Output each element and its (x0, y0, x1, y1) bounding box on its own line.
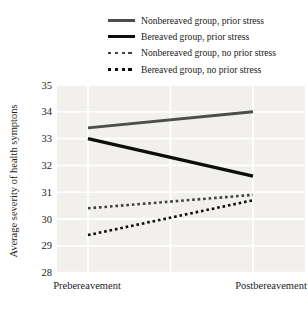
x-tick-prebereavement: Prebereavement (53, 280, 121, 291)
y-tick-label: 35 (26, 79, 52, 92)
line-chart-figure: Nonbereaved group, prior stressBereaved … (0, 0, 308, 310)
y-tick-label: 32 (26, 159, 52, 172)
x-tick-postbereavement: Postbereavement (235, 280, 307, 291)
y-tick-label: 28 (26, 266, 52, 279)
y-tick-label: 30 (26, 213, 52, 226)
plot-area (57, 85, 305, 273)
y-tick-label: 34 (26, 105, 52, 118)
y-tick-label: 33 (26, 132, 52, 145)
y-tick-label: 29 (26, 239, 52, 252)
plot-svg (57, 85, 305, 273)
y-tick-label: 31 (26, 186, 52, 199)
